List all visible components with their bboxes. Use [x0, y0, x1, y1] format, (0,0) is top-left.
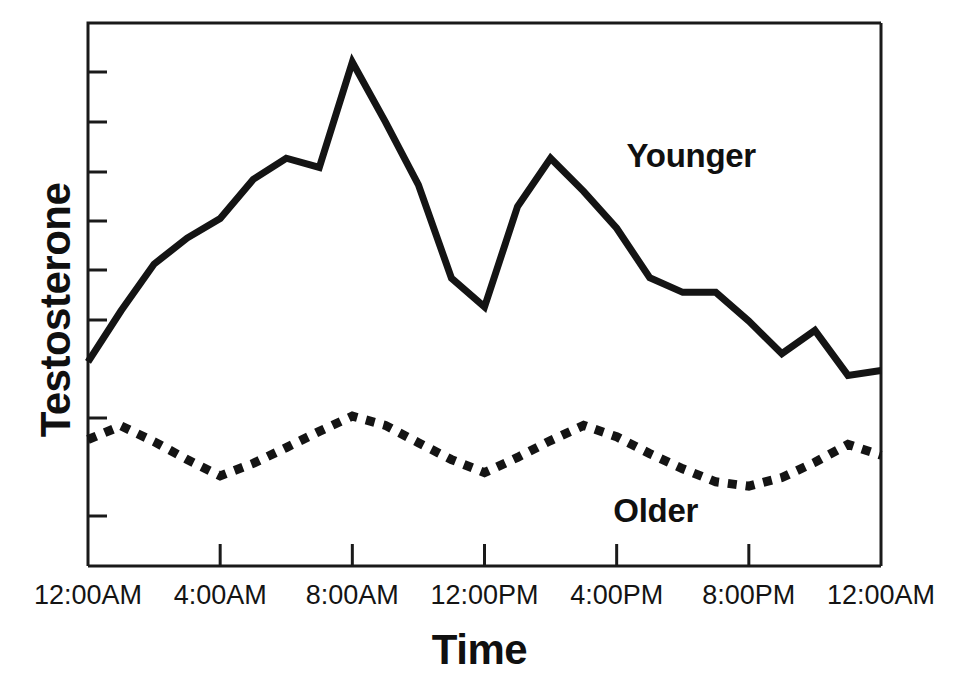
- series-annotation-younger: Younger: [627, 137, 756, 175]
- x-axis-tick-label: 12:00AM: [827, 580, 935, 611]
- chart-figure: Testosterone Time 12:00AM4:00AM8:00AM12:…: [0, 0, 959, 698]
- x-axis-tick-label: 12:00PM: [430, 580, 538, 611]
- x-axis-tick-label: 8:00PM: [702, 580, 795, 611]
- axis-spines: [88, 23, 881, 566]
- data-series-layer: [88, 62, 881, 486]
- x-axis-title: Time: [0, 626, 959, 674]
- series-line-younger: [88, 62, 881, 375]
- x-axis-tick-label: 4:00AM: [174, 580, 267, 611]
- series-annotation-older: Older: [613, 492, 698, 530]
- y-axis-title: Testosterone: [32, 150, 80, 470]
- y-axis-ticks: [88, 72, 107, 516]
- series-line-older: [88, 416, 881, 486]
- x-axis-tick-label: 8:00AM: [306, 580, 399, 611]
- x-axis-tick-label: 4:00PM: [570, 580, 663, 611]
- x-axis-ticks: [220, 544, 749, 566]
- axis-frame: [88, 23, 881, 566]
- x-axis-tick-label: 12:00AM: [34, 580, 142, 611]
